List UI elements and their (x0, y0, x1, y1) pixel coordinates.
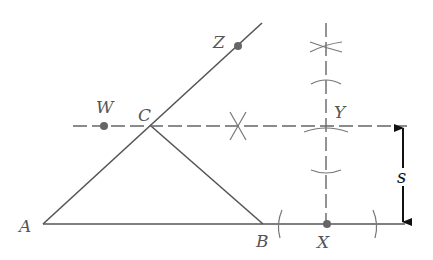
label-c: C (138, 105, 151, 125)
label-x: X (315, 232, 330, 252)
label-z: Z (212, 32, 226, 52)
line-cb (151, 126, 263, 224)
point-z-dot (234, 42, 242, 50)
geometry-diagram: A B C W X Y Z s (0, 0, 433, 260)
label-y: Y (334, 102, 347, 122)
construction-arc-lower (311, 170, 341, 173)
point-x-dot (323, 220, 331, 228)
label-s: s (397, 166, 406, 187)
point-w-dot (100, 122, 108, 130)
label-b: B (255, 231, 269, 251)
label-a: A (17, 216, 31, 236)
label-w: W (96, 97, 115, 117)
